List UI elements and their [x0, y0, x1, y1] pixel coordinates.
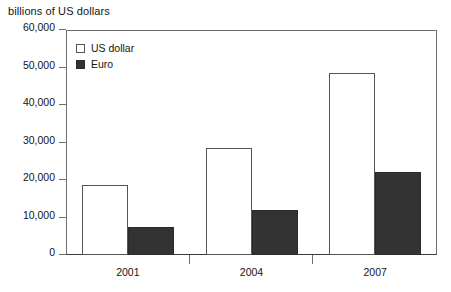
- legend-swatch-euro-icon: [76, 60, 85, 69]
- y-axis-tick-mark: [59, 67, 66, 68]
- x-axis-category-label: 2007: [363, 267, 386, 278]
- y-axis-title: billions of US dollars: [8, 5, 110, 17]
- y-axis-tick-label: 20,000: [23, 172, 55, 183]
- y-axis-tick-label: 40,000: [23, 97, 55, 108]
- chart-legend: US dollar Euro: [76, 41, 134, 73]
- y-axis-tick-mark: [59, 217, 66, 218]
- y-axis-tick-mark: [59, 254, 66, 255]
- y-axis-tick-label: 50,000: [23, 60, 55, 71]
- y-axis-tick-mark: [59, 29, 66, 30]
- legend-label-us-dollar: US dollar: [91, 43, 134, 54]
- bar-us-dollar-2007: [329, 73, 375, 255]
- y-axis-tick-mark: [59, 179, 66, 180]
- legend-label-euro: Euro: [91, 59, 113, 70]
- x-axis-tick-mark: [189, 255, 190, 264]
- y-axis-tick-label: 30,000: [23, 135, 55, 146]
- x-axis-category-label: 2001: [116, 267, 139, 278]
- x-axis-category-label: 2004: [240, 267, 263, 278]
- bar-us-dollar-2001: [82, 185, 128, 255]
- legend-swatch-us-dollar-icon: [76, 44, 85, 53]
- y-axis-tick-label: 10,000: [23, 210, 55, 221]
- legend-item-us-dollar: US dollar: [76, 41, 134, 55]
- x-axis-tick-mark: [312, 255, 313, 264]
- bar-chart: billions of US dollars 010,00020,00030,0…: [0, 0, 451, 292]
- y-axis-tick-label: 0: [49, 247, 55, 258]
- legend-item-euro: Euro: [76, 57, 134, 71]
- bar-euro-2001: [128, 227, 174, 256]
- bar-euro-2004: [252, 210, 298, 255]
- bar-us-dollar-2004: [206, 148, 252, 255]
- y-axis-tick-mark: [59, 104, 66, 105]
- bar-euro-2007: [375, 172, 421, 255]
- y-axis-tick-label: 60,000: [23, 22, 55, 33]
- y-axis-tick-mark: [59, 142, 66, 143]
